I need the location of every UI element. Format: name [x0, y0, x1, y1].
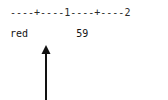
up-arrow-icon: [38, 44, 54, 100]
content-line: red 59: [10, 28, 88, 39]
column-ruler: ----+----1----+----2: [10, 7, 130, 18]
terminal-canvas: ----+----1----+----2 red 59: [0, 0, 168, 100]
